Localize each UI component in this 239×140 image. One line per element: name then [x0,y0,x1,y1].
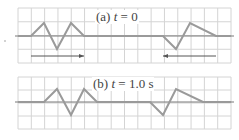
arrow-right-icon [79,54,84,58]
panel-a-label: (a) t = 0 [95,10,139,24]
stray-dot [4,40,6,42]
arrow-left-icon [163,54,168,58]
panel-b-label: (b) t = 1.0 s [92,77,154,91]
